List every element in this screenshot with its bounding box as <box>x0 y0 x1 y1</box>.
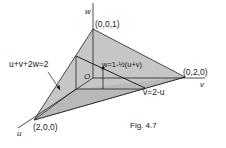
w-intercept-label: (0,0,1) <box>95 19 120 29</box>
figure-4-7: w v u (0,0,1) (0,2,0) (2,0,0) O u+v+2w=2… <box>0 0 226 148</box>
origin-label: O <box>84 72 90 81</box>
v-axis-label: v <box>200 80 205 89</box>
trace-equation-label: v=2-u <box>143 87 165 97</box>
w-axis-label: w <box>85 7 92 16</box>
figure-caption: Fig. 4.7 <box>130 121 157 130</box>
surface-equation-label: w=1-½(u+v) <box>101 60 143 69</box>
diagram-canvas: w v u (0,0,1) (0,2,0) (2,0,0) O u+v+2w=2… <box>0 0 226 148</box>
v-intercept-label: (0,2,0) <box>183 67 208 77</box>
u-intercept-label: (2,0,0) <box>33 122 58 132</box>
u-axis-label: u <box>17 129 22 138</box>
plane-equation-label: u+v+2w=2 <box>9 59 49 69</box>
